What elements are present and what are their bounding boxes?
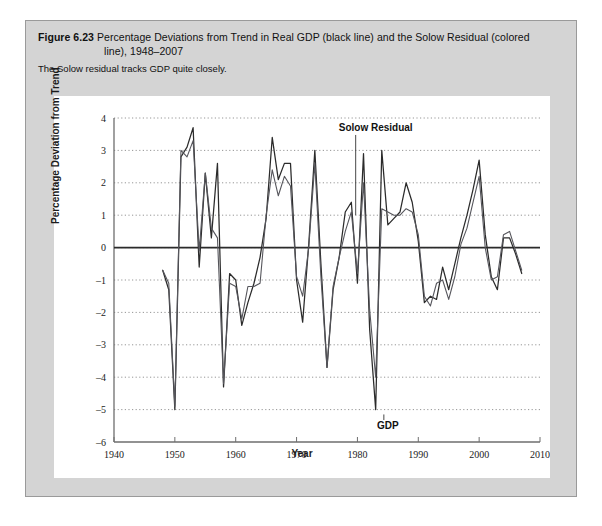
y-tick-label: –2 xyxy=(95,307,106,318)
y-tick-label: 2 xyxy=(101,177,106,188)
y-tick-label: –1 xyxy=(95,275,106,286)
figure-label: Figure 6.23 xyxy=(38,31,94,43)
y-tick-label: –3 xyxy=(95,339,106,350)
line-chart-plot: –6–5–4–3–2–101234 1940195019601970198019… xyxy=(54,96,550,478)
y-tick-label: –4 xyxy=(95,372,106,383)
x-axis-label: Year xyxy=(54,448,550,459)
data-series-group xyxy=(163,128,522,410)
y-tick-label: –6 xyxy=(95,437,106,448)
figure-panel: Figure 6.23 Percentage Deviations from T… xyxy=(25,20,577,497)
y-tick-label: 1 xyxy=(101,210,106,221)
y-axis-ticks: –6–5–4–3–2–101234 xyxy=(95,113,106,448)
figure-title: Figure 6.23 Percentage Deviations from T… xyxy=(38,31,566,58)
figure-title-line1: Percentage Deviations from Trend in Real… xyxy=(97,31,530,43)
y-tick-label: 4 xyxy=(101,113,106,124)
figure-caption: Figure 6.23 Percentage Deviations from T… xyxy=(38,31,566,74)
y-tick-label: 0 xyxy=(101,242,106,253)
y-axis-label: Percentage Deviation from Trend xyxy=(50,67,61,224)
annotation-gdp: GDP xyxy=(377,420,399,431)
annotation-solow-residual: Solow Residual xyxy=(339,122,413,133)
y-tick-label: –5 xyxy=(95,404,106,415)
chart-card: Percentage Deviation from Trend Year –6–… xyxy=(54,96,550,478)
y-tick-label: 3 xyxy=(101,145,106,156)
figure-subtitle: The Solow residual tracks GDP quite clos… xyxy=(38,63,566,74)
figure-title-line2: line), 1948–2007 xyxy=(104,45,566,59)
series-line-gdp xyxy=(163,128,522,410)
